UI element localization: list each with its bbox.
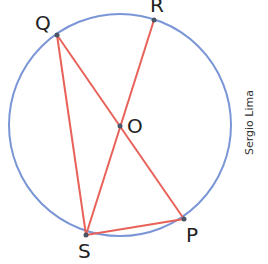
label-s: S <box>78 239 91 263</box>
point-o <box>118 124 123 129</box>
label-o: O <box>127 114 143 138</box>
label-p: P <box>186 223 198 247</box>
label-r: R <box>150 0 164 17</box>
point-p <box>182 217 187 222</box>
segment-qs <box>57 35 86 235</box>
geometry-diagram: Q R O S P Sergio Lima <box>0 0 268 264</box>
point-q <box>55 33 60 38</box>
segment-sp <box>86 219 184 235</box>
point-r <box>152 18 157 23</box>
label-q: Q <box>35 11 51 35</box>
credit-text: Sergio Lima <box>243 90 256 155</box>
point-s <box>84 233 89 238</box>
